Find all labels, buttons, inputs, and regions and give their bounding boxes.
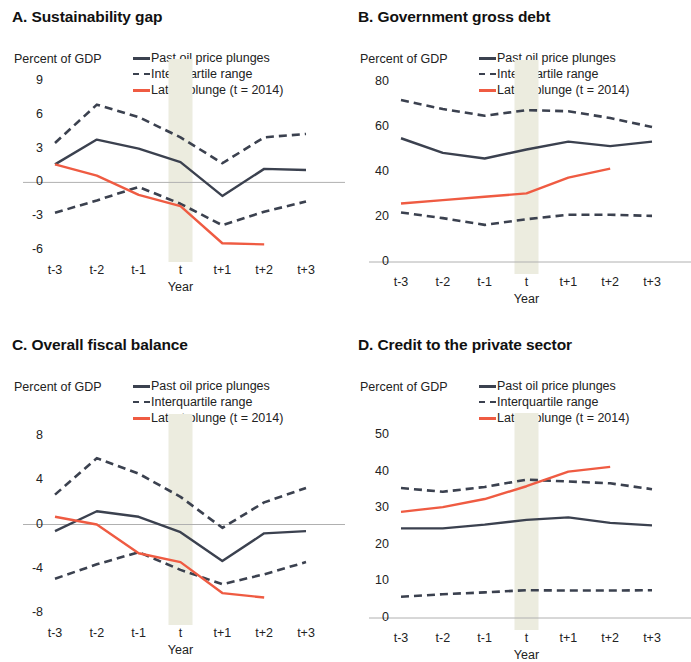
panel-d-title: D. Credit to the private sector: [358, 336, 572, 354]
x-axis-tick-label: t-2: [423, 632, 463, 645]
y-axis-tick-label: 8: [9, 429, 43, 442]
legend-solid-navy-line-icon: [479, 380, 496, 392]
panel-c-legend: Past oil price plunges Interquartile ran…: [133, 378, 283, 426]
series-line: [401, 517, 652, 528]
x-axis-tick-label: t: [507, 632, 547, 645]
panel-c-overall-fiscal-balance: C. Overall fiscal balance Percent of GDP…: [0, 328, 345, 656]
x-axis-tick-label: t-3: [381, 632, 421, 645]
legend-label-latest-plunge: Latest plunge (t = 2014): [497, 411, 629, 425]
legend-item-past-oil-price-plunges: Past oil price plunges: [479, 378, 629, 394]
shaded-band-at-t: [515, 413, 539, 630]
y-axis-tick-label: 50: [355, 428, 389, 441]
x-axis-tick-label: t-3: [381, 276, 421, 289]
x-axis-tick-label: t-2: [77, 627, 117, 640]
series-line: [55, 458, 306, 528]
legend-solid-red-line-icon: [479, 412, 496, 424]
panel-c-title: C. Overall fiscal balance: [12, 336, 188, 354]
series-line: [401, 213, 652, 225]
x-axis-tick-label: t: [161, 627, 201, 640]
y-axis-tick-label: -3: [9, 209, 43, 222]
panel-b-government-gross-debt: B. Government gross debt Percent of GDP …: [346, 0, 691, 328]
y-axis-tick-label: 60: [355, 120, 389, 133]
legend-item-past-oil-price-plunges: Past oil price plunges: [133, 50, 283, 66]
legend-solid-red-line-icon: [133, 412, 150, 424]
x-axis-tick-label: t+2: [244, 264, 284, 277]
y-axis-tick-label: 0: [9, 518, 43, 531]
panel-a-title: A. Sustainability gap: [12, 8, 162, 26]
legend-item-past-oil-price-plunges: Past oil price plunges: [133, 378, 283, 394]
x-axis-tick-label: t-2: [77, 264, 117, 277]
panel-a-axis-unit: Percent of GDP: [14, 52, 102, 66]
series-line: [55, 140, 306, 196]
legend-solid-red-line-icon: [479, 84, 496, 96]
series-line: [55, 511, 306, 561]
x-axis-tick-label: t+3: [286, 264, 326, 277]
legend-label-interquartile-range: Interquartile range: [151, 67, 252, 81]
panel-d-credit-to-the-private-sector: D. Credit to the private sector Percent …: [346, 328, 691, 656]
legend-solid-navy-line-icon: [133, 380, 150, 392]
x-axis-tick-label: t+2: [244, 627, 284, 640]
series-line: [401, 138, 652, 158]
y-axis-tick-label: 40: [355, 165, 389, 178]
x-axis-tick-label: t+1: [548, 276, 588, 289]
panel-a-sustainability-gap: A. Sustainability gap Percent of GDP Pas…: [0, 0, 345, 328]
legend-dashed-navy-line-icon: [133, 396, 150, 408]
legend-item-interquartile-range: Interquartile range: [479, 394, 629, 410]
legend-label-interquartile-range: Interquartile range: [497, 67, 598, 81]
legend-item-interquartile-range: Interquartile range: [133, 394, 283, 410]
legend-solid-red-line-icon: [133, 84, 150, 96]
series-line: [401, 169, 610, 204]
x-axis-tick-label: t-1: [119, 264, 159, 277]
x-axis-tick-label: t-3: [35, 627, 75, 640]
panel-b-title: B. Government gross debt: [358, 8, 550, 26]
legend-label-past-oil-price-plunges: Past oil price plunges: [151, 51, 270, 65]
panel-d-axis-unit: Percent of GDP: [360, 380, 448, 394]
x-axis-tick-label: t-1: [465, 632, 505, 645]
y-axis-tick-label: -8: [9, 606, 43, 619]
legend-item-latest-plunge: Latest plunge (t = 2014): [133, 410, 283, 426]
x-axis-title: Year: [151, 643, 211, 657]
legend-label-past-oil-price-plunges: Past oil price plunges: [151, 379, 270, 393]
x-axis-tick-label: t-1: [465, 276, 505, 289]
legend-label-latest-plunge: Latest plunge (t = 2014): [151, 83, 283, 97]
y-axis-tick-label: -6: [9, 243, 43, 256]
panel-c-axis-unit: Percent of GDP: [14, 380, 102, 394]
panel-b-axis-unit: Percent of GDP: [360, 52, 448, 66]
y-axis-tick-label: 6: [9, 108, 43, 121]
legend-label-interquartile-range: Interquartile range: [151, 395, 252, 409]
x-axis-tick-label: t+2: [590, 632, 630, 645]
x-axis-tick-label: t+3: [632, 276, 672, 289]
x-axis-tick-label: t+1: [548, 632, 588, 645]
series-line: [401, 480, 652, 492]
x-axis-title: Year: [151, 280, 211, 294]
y-axis-tick-label: 80: [355, 75, 389, 88]
panel-b-legend: Past oil price plunges Interquartile ran…: [479, 50, 629, 98]
y-axis-tick-label: 0: [355, 611, 389, 624]
y-axis-tick-label: 3: [9, 142, 43, 155]
y-axis-tick-label: 0: [355, 255, 389, 268]
legend-solid-navy-line-icon: [133, 52, 150, 64]
panel-a-legend: Past oil price plunges Interquartile ran…: [133, 50, 283, 98]
shaded-band-at-t: [169, 414, 193, 625]
legend-label-past-oil-price-plunges: Past oil price plunges: [497, 379, 616, 393]
x-axis-tick-label: t-2: [423, 276, 463, 289]
x-axis-tick-label: t+3: [286, 627, 326, 640]
x-axis-tick-label: t+1: [202, 627, 242, 640]
series-line: [55, 517, 264, 598]
legend-item-interquartile-range: Interquartile range: [133, 66, 283, 82]
y-axis-tick-label: 40: [355, 465, 389, 478]
legend-item-latest-plunge: Latest plunge (t = 2014): [479, 82, 629, 98]
x-axis-tick-label: t: [507, 276, 547, 289]
x-axis-tick-label: t: [161, 264, 201, 277]
legend-item-past-oil-price-plunges: Past oil price plunges: [479, 50, 629, 66]
legend-dashed-navy-line-icon: [133, 68, 150, 80]
y-axis-tick-label: -4: [9, 562, 43, 575]
series-line: [55, 164, 264, 244]
x-axis-tick-label: t+1: [202, 264, 242, 277]
legend-item-interquartile-range: Interquartile range: [479, 66, 629, 82]
y-axis-tick-label: 30: [355, 501, 389, 514]
y-axis-tick-label: 10: [355, 574, 389, 587]
x-axis-title: Year: [497, 292, 557, 306]
y-axis-tick-label: 9: [9, 74, 43, 87]
